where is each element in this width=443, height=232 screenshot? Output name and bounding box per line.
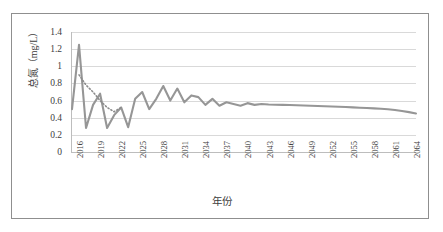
x-tick-label: 2034: [202, 141, 211, 158]
y-tick-label: 0.4: [50, 113, 62, 122]
x-tick-label: 2019: [97, 141, 106, 158]
chart-figure: 总氮（mg/L） 00.20.40.60.811.21.4 2016201920…: [0, 0, 443, 232]
y-tick-label: 0.2: [50, 130, 62, 139]
x-tick-label: 2025: [139, 141, 148, 158]
y-tick-label: 0.6: [50, 96, 62, 105]
y-tick-label: 0.8: [50, 79, 62, 88]
y-tick-label: 1.2: [50, 45, 62, 54]
x-tick-label: 2058: [371, 141, 380, 158]
x-tick-label: 2043: [266, 141, 275, 158]
x-tick-label: 2061: [392, 141, 401, 158]
x-tick-label: 2037: [223, 141, 232, 158]
x-tick-label: 2031: [181, 141, 190, 158]
y-tick-label: 0: [57, 148, 62, 157]
x-tick-label: 2028: [160, 141, 169, 158]
series-line-total-nitrogen: [72, 45, 416, 128]
y-tick-label: 1.4: [50, 28, 62, 37]
y-tick-label: 1: [57, 62, 62, 71]
x-tick-label: 2040: [244, 141, 253, 158]
x-tick-label: 2055: [350, 141, 359, 158]
x-tick-label: 2064: [413, 141, 422, 158]
x-tick-label: 2052: [329, 141, 338, 158]
data-series-layer: [72, 32, 416, 152]
x-axis-title: 年份: [0, 196, 443, 207]
x-tick-label: 2022: [118, 141, 127, 158]
x-tick-label: 2049: [308, 141, 317, 158]
x-tick-label: 2046: [287, 141, 296, 158]
x-tick-label: 2016: [76, 141, 85, 158]
plot-area: [72, 32, 416, 152]
